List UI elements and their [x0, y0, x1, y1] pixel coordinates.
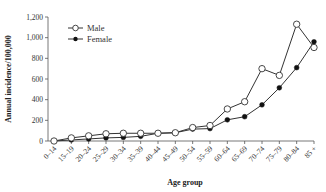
x-tick-label: 80–84 — [281, 144, 301, 164]
x-tick-label: 20–24 — [73, 144, 93, 164]
x-tick-label: 60–64 — [212, 144, 232, 164]
data-point — [155, 130, 161, 136]
x-tick-label: 25–29 — [91, 144, 111, 164]
x-axis: 0–1415–1920–2425–2930–3435–3940–4445–495… — [41, 141, 318, 164]
x-tick-label: 85 + — [302, 144, 318, 160]
x-tick-label: 15–19 — [56, 144, 76, 164]
x-tick-label: 40–44 — [143, 144, 163, 164]
data-point — [225, 117, 230, 122]
data-point — [172, 130, 178, 136]
y-tick-label: 400 — [32, 95, 44, 104]
y-tick-label: 600 — [32, 75, 44, 84]
data-point — [293, 21, 299, 27]
data-point — [137, 130, 143, 136]
data-point — [207, 122, 213, 128]
data-point — [241, 99, 247, 105]
y-tick-label: 800 — [32, 54, 44, 63]
x-tick-label: 55–59 — [195, 144, 215, 164]
data-point — [51, 138, 57, 144]
data-point — [311, 44, 317, 50]
data-point — [276, 72, 282, 78]
data-point — [189, 124, 195, 130]
line-chart: 02004006008001,0001,200 0–1415–1920–2425… — [0, 0, 326, 192]
data-point — [277, 85, 282, 90]
data-point — [260, 102, 265, 107]
x-tick-label: 45–49 — [160, 144, 180, 164]
y-axis: 02004006008001,0001,200 — [26, 13, 48, 146]
open-circle-marker-icon — [73, 25, 79, 31]
data-point — [120, 130, 126, 136]
data-point — [103, 131, 109, 137]
legend-item-female: Female — [68, 34, 112, 44]
legend-label: Female — [87, 34, 112, 44]
legend: MaleFemale — [68, 23, 112, 44]
data-point — [85, 133, 91, 139]
x-tick-label: 30–34 — [108, 144, 128, 164]
y-tick-label: 200 — [32, 116, 44, 125]
x-tick-label: 50–54 — [177, 144, 197, 164]
data-point — [294, 65, 299, 70]
data-point — [259, 65, 265, 71]
x-tick-label: 75–79 — [264, 144, 284, 164]
y-tick-label: 0 — [39, 137, 43, 146]
y-tick-label: 1,000 — [26, 33, 43, 42]
data-point — [224, 106, 230, 112]
filled-circle-marker-icon — [73, 37, 77, 41]
x-tick-label: 35–39 — [125, 144, 145, 164]
x-tick-label: 65–69 — [229, 144, 249, 164]
y-axis-title: Annual incidence/100,000 — [4, 35, 13, 123]
legend-label: Male — [87, 23, 105, 33]
data-point — [312, 39, 317, 44]
x-tick-label: 70–74 — [247, 144, 267, 164]
y-tick-label: 1,200 — [26, 13, 43, 22]
data-point — [242, 114, 247, 119]
series-female — [52, 39, 317, 143]
legend-item-male: Male — [68, 23, 105, 33]
data-point — [68, 135, 74, 141]
x-axis-title: Age group — [167, 178, 203, 187]
